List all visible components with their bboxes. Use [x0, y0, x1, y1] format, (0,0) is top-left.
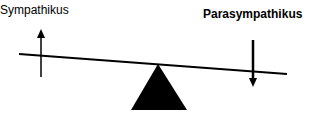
fulcrum-triangle [131, 64, 187, 110]
arrow-up-icon [37, 29, 45, 77]
seesaw-diagram: Sympathikus Parasympathikus [0, 0, 313, 116]
seesaw-graphic [0, 0, 313, 116]
balance-beam [19, 54, 287, 74]
arrow-down-icon [249, 40, 257, 87]
